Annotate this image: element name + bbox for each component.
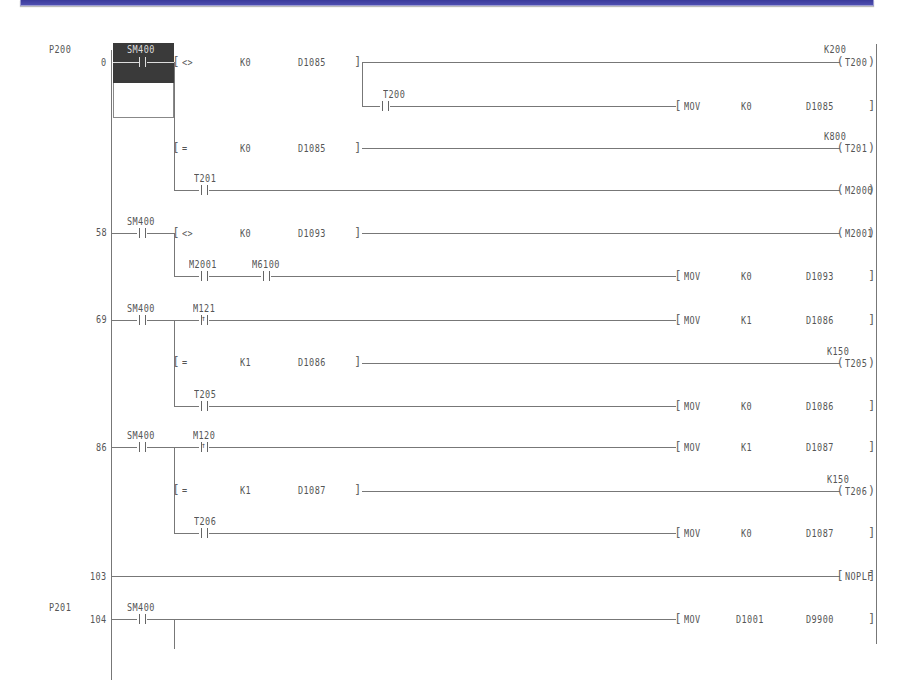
operand: K0 [741, 401, 752, 412]
instruction-open: [ [676, 441, 681, 453]
contact-t201[interactable] [199, 185, 209, 195]
contact-m2001[interactable] [199, 271, 209, 281]
coil-close: ) [869, 142, 874, 154]
step-number: 58 [96, 227, 107, 238]
contact-label: T206 [194, 516, 216, 527]
step-number: 86 [96, 442, 107, 453]
instruction-open: [ [676, 613, 681, 625]
contact-t200[interactable] [380, 101, 390, 111]
contact-label: M6100 [252, 259, 280, 270]
coil-open: ( [838, 56, 843, 68]
branch-bus [174, 619, 175, 649]
wire [209, 406, 676, 407]
instruction-close: ] [869, 314, 874, 326]
contact-label: T201 [194, 173, 216, 184]
wire [362, 363, 840, 364]
left-power-rail [111, 50, 112, 680]
contact-sm400[interactable] [137, 57, 147, 67]
operand: K0 [240, 57, 251, 68]
compare-open-bracket: [ [174, 56, 179, 68]
coil-t200[interactable]: T200 [845, 57, 867, 68]
compare-close-bracket: ] [355, 356, 360, 368]
operand: D1093 [806, 271, 834, 282]
wire [209, 190, 840, 191]
contact-label: SM400 [127, 216, 155, 227]
contact-t206[interactable] [199, 528, 209, 538]
right-power-rail [876, 44, 877, 644]
coil-setting: K200 [824, 44, 846, 55]
contact-label: M2001 [189, 259, 217, 270]
wire [209, 447, 676, 448]
operand: D1087 [806, 528, 834, 539]
compare-open-bracket: [ [174, 142, 179, 154]
compare-op: = [182, 357, 188, 368]
operand: D1087 [298, 485, 326, 496]
operand: D1085 [298, 143, 326, 154]
contact-sm400[interactable] [137, 315, 147, 325]
instruction-mov[interactable]: MOV [684, 442, 701, 453]
instruction-close: ] [869, 527, 874, 539]
wire [174, 533, 199, 534]
instruction-mov[interactable]: MOV [684, 401, 701, 412]
operand: D1093 [298, 228, 326, 239]
instruction-open: [ [676, 314, 681, 326]
operand: K0 [741, 528, 752, 539]
branch-bus [362, 62, 363, 107]
coil-t205[interactable]: T205 [845, 358, 867, 369]
compare-close-bracket: ] [355, 142, 360, 154]
wire [111, 447, 137, 448]
compare-close-bracket: ] [355, 56, 360, 68]
operand: D1086 [298, 357, 326, 368]
compare-op: <> [182, 228, 193, 239]
wire [271, 276, 676, 277]
operand: D1085 [806, 101, 834, 112]
wire [362, 148, 840, 149]
operand: D1086 [806, 401, 834, 412]
coil-open: ( [838, 485, 843, 497]
step-number: 69 [96, 314, 107, 325]
contact-sm400[interactable] [137, 614, 147, 624]
contact-sm400[interactable] [137, 228, 147, 238]
wire [174, 447, 199, 448]
coil-close: ) [869, 227, 874, 239]
compare-op: = [182, 143, 188, 154]
contact-label: SM400 [127, 303, 155, 314]
contact-m6100[interactable] [261, 271, 271, 281]
operand: K0 [240, 143, 251, 154]
wire [113, 62, 139, 63]
coil-open: ( [838, 184, 843, 196]
instruction-close: ] [869, 100, 874, 112]
wire [362, 106, 380, 107]
coil-t201[interactable]: T201 [845, 143, 867, 154]
contact-label: SM400 [127, 602, 155, 613]
wire [390, 106, 676, 107]
cursor-selection-outline [113, 83, 174, 118]
operand: K1 [240, 485, 251, 496]
instruction-mov[interactable]: MOV [684, 528, 701, 539]
instruction-mov[interactable]: MOV [684, 101, 701, 112]
instruction-close: ] [869, 441, 874, 453]
instruction-mov[interactable]: MOV [684, 614, 701, 625]
contact-t205[interactable] [199, 401, 209, 411]
coil-setting: K800 [824, 131, 846, 142]
operand: D1001 [736, 614, 764, 625]
operand: K0 [741, 101, 752, 112]
pointer-label-p201: P201 [49, 602, 71, 613]
instruction-mov[interactable]: MOV [684, 271, 701, 282]
instruction-mov[interactable]: MOV [684, 315, 701, 326]
coil-open: ( [838, 142, 843, 154]
contact-sm400[interactable] [137, 442, 147, 452]
contact-label: SM400 [127, 430, 155, 441]
step-number: 0 [101, 57, 107, 68]
coil-t206[interactable]: T206 [845, 486, 867, 497]
operand: K0 [741, 271, 752, 282]
wire [111, 320, 137, 321]
ladder-diagram: P200 P201 0 58 69 86 103 104 SM400 [ <> … [0, 0, 917, 682]
operand: K1 [240, 357, 251, 368]
operand: D1087 [806, 442, 834, 453]
contact-label: M120 [193, 430, 215, 441]
wire [111, 233, 137, 234]
wire [174, 190, 199, 191]
operand: D1085 [298, 57, 326, 68]
operand: K0 [240, 228, 251, 239]
